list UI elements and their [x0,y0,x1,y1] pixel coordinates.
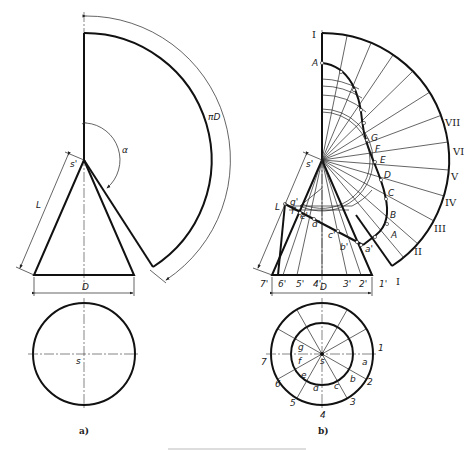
plan-number: 5 [290,398,296,408]
slant-label: L [36,200,41,210]
plan-center-label: s [320,356,325,366]
point-label: b' [340,242,348,252]
diameter-label: D [82,282,89,292]
diameter-label: D [320,282,327,292]
plan-number: 2 [367,377,373,387]
apex-label: s' [70,159,77,169]
base-label: 6' [278,279,286,289]
generator-label: VI [452,146,464,157]
generator-label: I [396,276,400,287]
plan-number: 7 [261,357,267,367]
plan-number: 1 [378,343,384,353]
point-label: E [380,155,386,165]
extension-line [16,267,34,275]
point-label: A [390,230,397,240]
cone-edge [278,204,285,275]
base-label: 2' [359,279,367,289]
point-label: d' [312,219,320,229]
point-label: A [311,58,318,68]
generator-label: IV [445,197,457,208]
generator-label: I [312,29,316,40]
plan-letter: a [362,357,368,367]
point-label: e' [300,211,308,221]
base-label: 7' [260,279,268,289]
point-label: D [384,170,391,180]
extension-line [150,270,166,283]
point-label: F [375,144,381,154]
front-generators [283,160,361,275]
caption-a: a) [79,426,89,436]
base-label: 1' [379,279,387,289]
plan-number: 6 [275,379,281,389]
plan-number: 4 [320,410,326,420]
plan-center-label: s [76,356,81,366]
point-label: c' [328,230,335,240]
generator-label: V [450,171,459,182]
plan-letter: c [334,381,339,391]
plan-letter: f [298,356,303,366]
generator-label: VII [444,117,460,128]
point-label: B [390,210,396,220]
figure-b: I I II III IV V VI VII A A B C D E F G s… [253,29,464,436]
plan-letter: g [298,342,304,352]
apex-label: s' [306,159,313,169]
generator-label: III [434,223,446,234]
drawing-canvas: πD α s' L D s a) [0,0,474,450]
construction-arcs [289,79,373,211]
extension-line [253,268,272,275]
plan-letter: d [313,383,319,393]
plan-letter: e [301,370,307,380]
arc-label: πD [208,112,220,122]
figure-a: πD α s' L D s a) [16,12,230,436]
generator-label: II [414,246,422,257]
point-label: a' [365,244,373,254]
base-label: 3' [343,279,351,289]
slant-label: L [275,202,280,212]
point-label: C [388,188,395,198]
caption-b: b) [318,426,329,436]
plan-letter: b [350,374,356,384]
angle-label: α [122,145,128,155]
point-label: G [371,133,378,143]
sector-arc [84,33,212,267]
point-label: f' [291,206,297,216]
cone-development-figure: πD α s' L D s a) [0,0,474,450]
sector-arc [322,33,449,266]
base-label: 5' [296,279,304,289]
plan-number: 3 [350,397,356,407]
sector-edge [84,160,153,267]
